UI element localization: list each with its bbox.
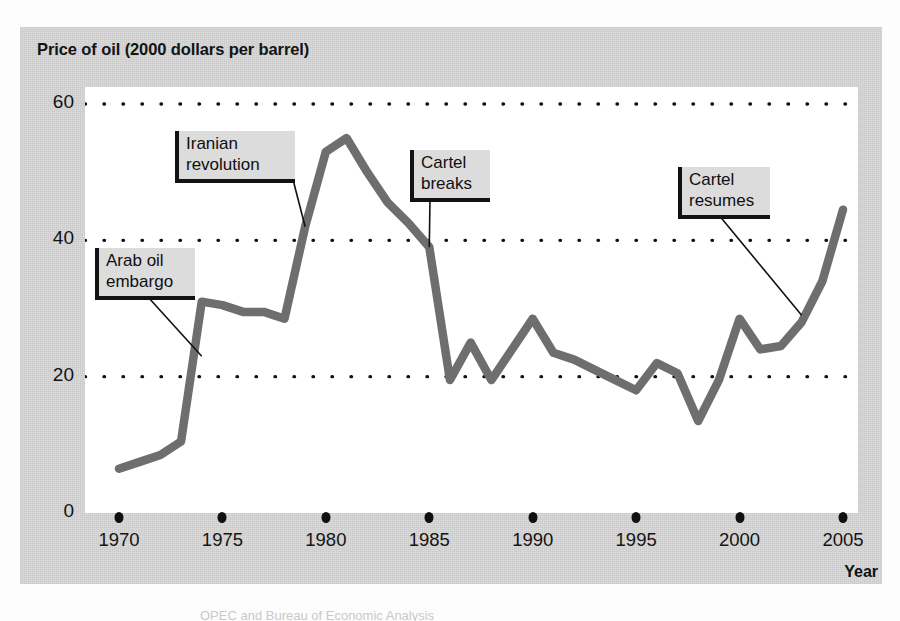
y-tick-label-0: 0 <box>22 500 74 522</box>
x-tick-dot-1970 <box>115 512 124 523</box>
figure-caption: OPEC and Bureau of Economic Analysis <box>200 608 890 621</box>
chart-title: Price of oil (2000 dollars per barrel) <box>37 40 309 59</box>
x-tick-label-2005: 2005 <box>822 529 863 551</box>
x-tick-label-2000: 2000 <box>719 529 760 551</box>
x-tick-dot-1980 <box>321 512 330 523</box>
x-tick-label-1975: 1975 <box>202 529 243 551</box>
y-tick-label-60: 60 <box>22 91 74 113</box>
y-tick-label-40: 40 <box>22 227 74 249</box>
annotation-cartel-resumes: Cartel resumes <box>678 167 770 219</box>
x-tick-label-1995: 1995 <box>616 529 657 551</box>
x-tick-label-1980: 1980 <box>305 529 346 551</box>
x-tick-dot-1995 <box>632 512 641 523</box>
scanned-page-background: Price of oil (2000 dollars per barrel) 0… <box>0 0 900 621</box>
x-tick-label-1990: 1990 <box>512 529 553 551</box>
x-tick-dot-1990 <box>528 512 537 523</box>
annotation-cartel-breaks: Cartel breaks <box>410 150 490 202</box>
x-tick-dot-1985 <box>425 512 434 523</box>
x-tick-label-1970: 1970 <box>98 529 139 551</box>
x-tick-dot-2005 <box>839 512 848 523</box>
annotation-iranian-revolution: Iranian revolution <box>175 131 295 183</box>
x-tick-label-1985: 1985 <box>409 529 450 551</box>
x-axis-title: Year <box>844 563 878 581</box>
y-tick-label-20: 20 <box>22 364 74 386</box>
annotation-arab-oil-embargo: Arab oil embargo <box>95 248 195 300</box>
x-tick-dot-2000 <box>735 512 744 523</box>
x-tick-dot-1975 <box>218 512 227 523</box>
